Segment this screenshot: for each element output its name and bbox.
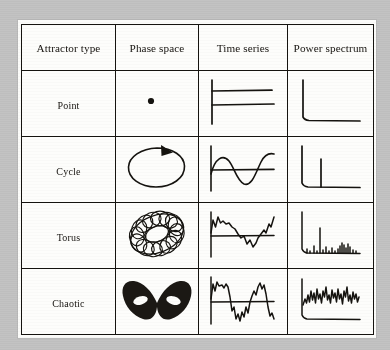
time-series-cell-cycle	[199, 137, 288, 203]
power-spectrum-cell-point	[288, 71, 374, 137]
scanned-paper-sheet: Attractor type Phase space Time series P…	[18, 20, 376, 338]
table-header-row: Attractor type Phase space Time series P…	[22, 25, 374, 71]
phase-space-cell-chaotic	[116, 269, 199, 335]
sine-wave-glyph	[199, 137, 287, 202]
phase-space-cell-torus	[116, 203, 199, 269]
lorenz-butterfly-glyph	[116, 269, 198, 334]
row-label-torus: Torus	[22, 203, 116, 269]
column-header-phase-space: Phase space	[116, 25, 199, 71]
row-label-text: Cycle	[56, 166, 80, 177]
row-label-cycle: Cycle	[22, 137, 116, 203]
broadband-noise-glyph	[288, 269, 373, 334]
column-header-power-spectrum: Power spectrum	[288, 25, 374, 71]
row-label-text: Chaotic	[52, 298, 85, 309]
row-label-point: Point	[22, 71, 116, 137]
discrete-spikes-glyph	[288, 203, 373, 268]
irregular-wave-glyph	[199, 269, 287, 334]
table-row: Cycle	[22, 137, 374, 203]
time-series-cell-point	[199, 71, 288, 137]
limit-cycle-loop-with-arrow-glyph	[116, 137, 198, 202]
row-label-text: Point	[57, 100, 79, 111]
single-dc-spike-glyph	[288, 71, 373, 136]
column-header-time-series: Time series	[199, 25, 288, 71]
flat-lines-glyph	[199, 71, 287, 136]
attractor-table: Attractor type Phase space Time series P…	[21, 24, 374, 335]
power-spectrum-cell-chaotic	[288, 269, 374, 335]
time-series-cell-torus	[199, 203, 288, 269]
phase-space-cell-cycle	[116, 137, 199, 203]
row-label-text: Torus	[57, 232, 81, 243]
power-spectrum-cell-torus	[288, 203, 374, 269]
column-header-attractor-type: Attractor type	[22, 25, 116, 71]
row-label-chaotic: Chaotic	[22, 269, 116, 335]
table-row: Chaotic	[22, 269, 374, 335]
single-peak-spike-glyph	[288, 137, 373, 202]
time-series-cell-chaotic	[199, 269, 288, 335]
table-row: Torus	[22, 203, 374, 269]
phase-space-cell-point	[116, 71, 199, 137]
table-row: Point	[22, 71, 374, 137]
figure-root: Attractor type Phase space Time series P…	[0, 0, 390, 350]
quasiperiodic-wave-glyph	[199, 203, 287, 268]
power-spectrum-cell-cycle	[288, 137, 374, 203]
torus-coil-ring-glyph	[116, 203, 198, 268]
single-dot-glyph	[116, 71, 198, 136]
